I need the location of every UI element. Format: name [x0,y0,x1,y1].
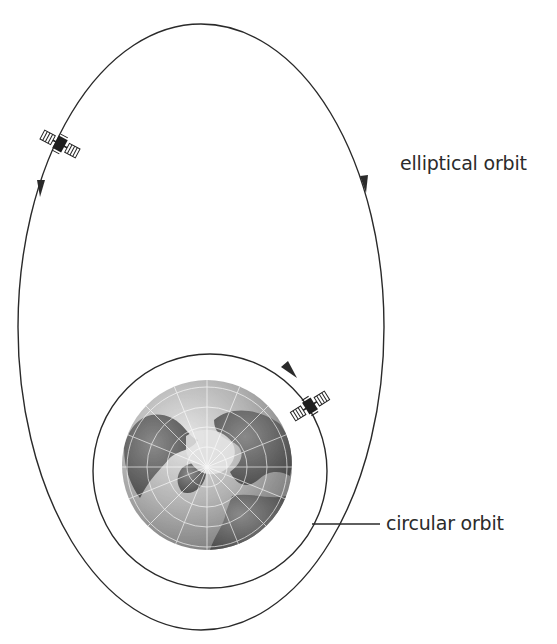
satellite-icon-elliptical [38,127,82,162]
elliptical-orbit-label: elliptical orbit [400,152,527,174]
circular-orbit-arrow [281,361,297,378]
satellite-icon-circular [288,388,331,424]
circular-orbit-label: circular orbit [386,512,504,534]
earth-globe [120,380,295,555]
orbit-diagram [0,0,557,644]
